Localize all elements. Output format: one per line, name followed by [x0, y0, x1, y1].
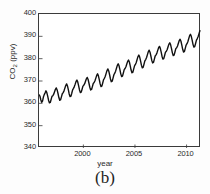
x-tick-label-2000: 2000	[62, 149, 102, 158]
y-tick-label-360: 360	[2, 98, 36, 106]
x-tick-label-2010: 2010	[166, 149, 206, 158]
y-axis-title-base: CO	[8, 67, 17, 79]
x-axis-title: year	[0, 159, 210, 168]
co2-line-series	[39, 14, 201, 148]
co2-chart-figure: 340350360370380390400 CO2 (ppv) 20002005…	[0, 0, 210, 160]
figure-screenshot: 340350360370380390400 CO2 (ppv) 20002005…	[0, 0, 210, 194]
plot-area	[38, 13, 200, 147]
y-axis-title-subscript: 2	[12, 64, 18, 67]
y-tick-label-400: 400	[2, 9, 36, 17]
y-axis-title-unit: (ppv)	[8, 44, 17, 64]
x-tick-label-2005: 2005	[114, 149, 154, 158]
co2-polyline	[39, 31, 200, 103]
figure-caption: (b)	[0, 168, 210, 188]
y-tick-label-350: 350	[2, 121, 36, 129]
y-axis-title: CO2 (ppv)	[8, 26, 17, 98]
y-axis-tick-labels: 340350360370380390400	[0, 0, 36, 160]
